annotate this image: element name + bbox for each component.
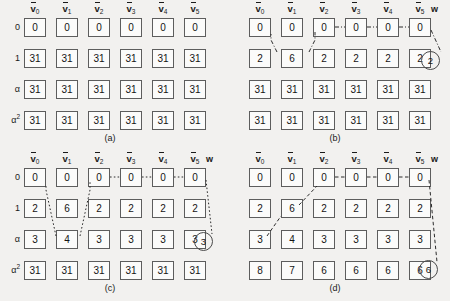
cell-r3-c3: 6 — [345, 261, 367, 280]
column-header-v0: v0 — [22, 154, 48, 164]
cell-r2-c5: 3 — [409, 230, 431, 249]
cell-r3-c2: 6 — [313, 261, 335, 280]
cell-r3-c3: 31 — [120, 111, 142, 130]
cell-r3-c5: 31 — [184, 261, 206, 280]
cell-r2-c4: 3 — [152, 230, 174, 249]
row-label-0: 0 — [4, 23, 20, 32]
cell-r3-c4: 6 — [377, 261, 399, 280]
cell-r1-c1: 6 — [56, 199, 78, 218]
row-label-0: 0 — [4, 173, 20, 182]
cell-r1-c4: 2 — [377, 49, 399, 68]
cell-r2-c1: 31 — [281, 80, 303, 99]
row-label-alpha2: α2 — [4, 116, 20, 125]
cell-r0-c1: 0 — [281, 18, 303, 37]
w-label: w — [431, 5, 438, 14]
row-label-1: 1 — [4, 204, 20, 213]
row-label-1: 1 — [4, 54, 20, 63]
cell-r2-c2: 31 — [88, 80, 110, 99]
cell-r3-c0: 31 — [24, 261, 46, 280]
cell-r2-c0: 31 — [24, 80, 46, 99]
cell-r0-c0: 0 — [24, 168, 46, 187]
cell-r0-c4: 0 — [152, 18, 174, 37]
column-header-v1: v1 — [279, 4, 305, 14]
cell-r0-c5: 0 — [409, 168, 431, 187]
cell-r0-c2: 0 — [313, 168, 335, 187]
cell-r2-c0: 3 — [24, 230, 46, 249]
column-header-v2: v2 — [311, 154, 337, 164]
cell-r0-c3: 0 — [345, 168, 367, 187]
panel-b: v0 v1 v2 v3 v4 v5 w 0 0 0 0 0 0 2 6 2 2 … — [225, 0, 450, 150]
column-header-v4: v4 — [150, 154, 176, 164]
cell-r3-c0: 31 — [24, 111, 46, 130]
cell-r0-c2: 0 — [313, 18, 335, 37]
cell-r1-c1: 6 — [281, 49, 303, 68]
panel-caption-b: (b) — [305, 133, 365, 143]
cell-r0-c3: 0 — [120, 168, 142, 187]
column-header-v4: v4 — [375, 154, 401, 164]
cell-r1-c4: 2 — [152, 199, 174, 218]
cell-r0-c1: 0 — [56, 168, 78, 187]
cell-r1-c2: 2 — [313, 199, 335, 218]
cell-r3-c5: 31 — [409, 111, 431, 130]
cell-r0-c5: 0 — [184, 18, 206, 37]
column-header-v5: v5 — [407, 154, 433, 164]
column-header-v0: v0 — [247, 154, 273, 164]
column-header-v1: v1 — [54, 154, 80, 164]
cell-r0-c2: 0 — [88, 18, 110, 37]
panel-c: v0 v1 v2 v3 v4 v5 w 0 1 α α2 0 0 0 0 0 0… — [0, 150, 225, 300]
cell-r1-c2: 2 — [88, 199, 110, 218]
cell-r1-c1: 6 — [281, 199, 303, 218]
cell-r1-c0: 2 — [24, 199, 46, 218]
cell-r2-c2: 3 — [88, 230, 110, 249]
cell-r2-c2: 3 — [313, 230, 335, 249]
column-header-v5: v5 — [182, 4, 208, 14]
cell-r2-c1: 4 — [281, 230, 303, 249]
column-header-v3: v3 — [343, 4, 369, 14]
column-header-v0: v0 — [22, 4, 48, 14]
cell-r2-c5: 31 — [184, 80, 206, 99]
cell-r0-c4: 0 — [377, 18, 399, 37]
cell-r2-c4: 3 — [377, 230, 399, 249]
cell-r0-c1: 0 — [281, 168, 303, 187]
cell-r1-c3: 2 — [120, 199, 142, 218]
cell-r1-c0: 2 — [249, 199, 271, 218]
cell-r0-c5: 0 — [184, 168, 206, 187]
cell-r1-c0: 2 — [249, 49, 271, 68]
row-label-alpha2: α2 — [4, 266, 20, 275]
column-header-v2: v2 — [86, 154, 112, 164]
panel-caption-c: (c) — [80, 283, 140, 293]
cell-r3-c0: 8 — [249, 261, 271, 280]
output-circle-value: 6 — [419, 260, 438, 279]
column-header-v1: v1 — [54, 4, 80, 14]
cell-r0-c4: 0 — [152, 168, 174, 187]
cell-r1-c4: 2 — [377, 199, 399, 218]
cell-r2-c0: 3 — [249, 230, 271, 249]
row-label-alpha: α — [4, 235, 20, 244]
cell-r1-c2: 2 — [313, 49, 335, 68]
cell-r2-c2: 31 — [313, 80, 335, 99]
cell-r0-c2: 0 — [88, 168, 110, 187]
cell-r3-c1: 31 — [56, 261, 78, 280]
cell-r1-c4: 31 — [152, 49, 174, 68]
cell-r2-c5: 31 — [409, 80, 431, 99]
cell-r1-c3: 2 — [345, 49, 367, 68]
column-header-v1: v1 — [279, 154, 305, 164]
cell-r3-c3: 31 — [345, 111, 367, 130]
cell-r2-c1: 31 — [56, 80, 78, 99]
cell-r2-c3: 3 — [345, 230, 367, 249]
cell-r1-c3: 31 — [120, 49, 142, 68]
cell-r0-c3: 0 — [120, 18, 142, 37]
column-header-v0: v0 — [247, 4, 273, 14]
column-header-v5: v5 — [182, 154, 208, 164]
panel-caption-d: (d) — [305, 283, 365, 293]
cell-r2-c3: 3 — [120, 230, 142, 249]
cell-r0-c5: 0 — [409, 18, 431, 37]
cell-r3-c4: 31 — [377, 111, 399, 130]
cell-r1-c1: 31 — [56, 49, 78, 68]
column-header-v3: v3 — [343, 154, 369, 164]
cell-r3-c5: 31 — [184, 111, 206, 130]
panel-a: v0 v1 v2 v3 v4 v5 0 1 α α2 0 0 0 0 0 0 3… — [0, 0, 225, 150]
cell-r3-c3: 31 — [120, 261, 142, 280]
panel-caption-a: (a) — [80, 133, 140, 143]
w-label: w — [431, 155, 438, 164]
